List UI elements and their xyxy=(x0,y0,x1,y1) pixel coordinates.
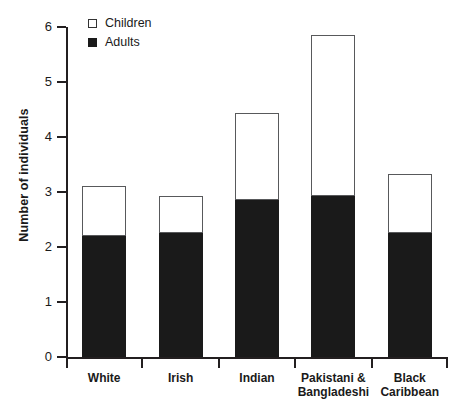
bar-segment-adults xyxy=(159,233,203,357)
bar-segment-children xyxy=(311,35,355,196)
x-axis-category-label: Pakistani & Bangladeshi xyxy=(295,371,371,399)
y-axis-spine xyxy=(66,27,68,358)
bar-stack xyxy=(235,113,279,357)
x-axis-category-label: Irish xyxy=(142,371,218,385)
bar-stack xyxy=(311,35,355,357)
x-axis-tick xyxy=(446,359,448,368)
bar-stack xyxy=(388,174,432,357)
y-axis-tick xyxy=(57,246,66,248)
x-axis-tick xyxy=(141,359,143,368)
y-axis-tick-label: 5 xyxy=(28,75,52,88)
bar-stack xyxy=(82,186,126,357)
y-axis-tick-label: 2 xyxy=(28,240,52,253)
bar-segment-children xyxy=(235,113,279,200)
x-axis-category-label: Indian xyxy=(219,371,295,385)
bar-chart: Number of individuals Children Adults 01… xyxy=(0,0,471,414)
y-axis-tick-label: 3 xyxy=(28,185,52,198)
bar-segment-adults xyxy=(388,233,432,357)
y-axis-tick xyxy=(57,301,66,303)
x-axis-category-label: White xyxy=(66,371,142,385)
bar-stack xyxy=(159,196,203,357)
x-axis-tick xyxy=(371,359,373,368)
y-axis-tick-label: 1 xyxy=(28,295,52,308)
x-axis-spine xyxy=(66,357,448,359)
y-axis-tick-label: 4 xyxy=(28,130,52,143)
bar-segment-children xyxy=(159,196,203,233)
x-axis-category-label: Black Caribbean xyxy=(372,371,448,399)
y-axis-tick xyxy=(57,26,66,28)
x-axis-tick xyxy=(294,359,296,368)
y-axis-tick xyxy=(57,356,66,358)
y-axis-tick xyxy=(57,81,66,83)
y-axis-tick-label: 6 xyxy=(28,20,52,33)
bar-segment-adults xyxy=(82,236,126,357)
bar-segment-adults xyxy=(311,196,355,357)
bar-segment-adults xyxy=(235,200,279,357)
bar-segment-children xyxy=(388,174,432,233)
y-axis-tick-label: 0 xyxy=(28,350,52,363)
x-axis-tick xyxy=(66,359,68,368)
x-axis-tick xyxy=(218,359,220,368)
plot-area: 0123456WhiteIrishIndianPakistani & Bangl… xyxy=(66,27,448,357)
y-axis-tick xyxy=(57,191,66,193)
y-axis-tick xyxy=(57,136,66,138)
bar-segment-children xyxy=(82,186,126,236)
